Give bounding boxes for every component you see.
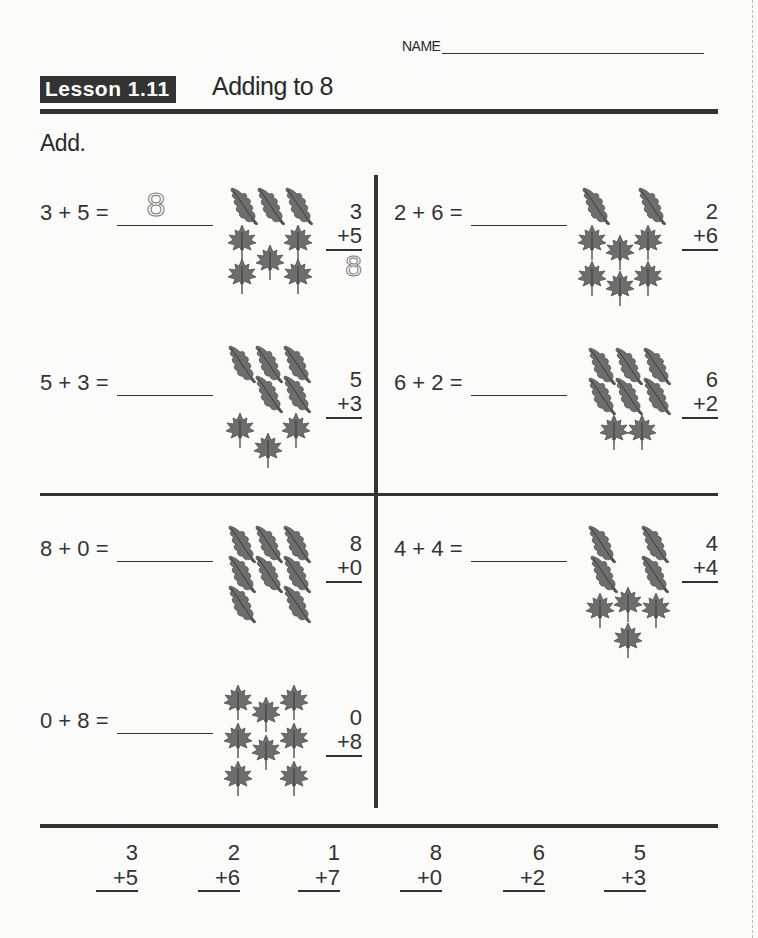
bottom-problem-top: 6	[503, 840, 545, 865]
bottom-problem-bottom: +2	[503, 865, 545, 892]
vertical-top: 0	[326, 706, 362, 730]
answer-blank[interactable]	[471, 539, 567, 562]
leaf-group-icon	[586, 346, 676, 456]
bottom-problem-bottom: +6	[198, 865, 240, 892]
leaf-group-icon	[226, 344, 316, 469]
traced-answer: 8	[147, 185, 166, 224]
leaf-group-icon	[228, 186, 318, 301]
equation: 6 + 2 =	[394, 370, 463, 396]
name-field[interactable]: NAME	[402, 38, 704, 54]
leaf-group-icon	[226, 524, 316, 624]
answer-blank[interactable]	[117, 539, 213, 562]
vertical-traced-answer: 8	[326, 251, 362, 281]
vertical-bottom: +2	[682, 392, 718, 419]
vertical-bottom: +8	[326, 730, 362, 757]
bottom-problem-1: 3 +5	[96, 840, 138, 892]
equation: 4 + 4 =	[394, 536, 463, 562]
vertical-top: 5	[326, 368, 362, 392]
vertical-bottom: +0	[326, 556, 362, 583]
vertical-top: 6	[682, 368, 718, 392]
bottom-problem-6: 5 +3	[604, 840, 646, 892]
vertical-bottom: +6	[682, 224, 718, 251]
equation: 3 + 5 =	[40, 200, 109, 226]
vertical-bottom: +4	[682, 556, 718, 583]
vertical-top: 4	[682, 532, 718, 556]
header-rule	[40, 109, 718, 114]
vertical-divider	[374, 175, 378, 808]
bottom-problem-5: 6 +2	[503, 840, 545, 892]
bottom-problem-top: 5	[604, 840, 646, 865]
bottom-problem-3: 1 +7	[298, 840, 340, 892]
bottom-problem-2: 2 +6	[198, 840, 240, 892]
answer-blank[interactable]	[117, 711, 213, 734]
lesson-badge: Lesson 1.11	[40, 76, 176, 103]
answer-blank[interactable]	[117, 373, 213, 396]
name-line[interactable]	[442, 39, 704, 54]
bottom-problem-top: 2	[198, 840, 240, 865]
equation: 5 + 3 =	[40, 370, 109, 396]
vertical-bottom: +3	[326, 392, 362, 419]
equation: 0 + 8 =	[40, 708, 109, 734]
leaf-group-icon	[586, 524, 676, 664]
answer-blank[interactable]	[471, 373, 567, 396]
middle-divider	[40, 493, 718, 496]
bottom-problem-bottom: +3	[604, 865, 646, 892]
bottom-problem-top: 1	[298, 840, 340, 865]
answer-blank[interactable]	[471, 203, 567, 226]
vertical-top: 2	[682, 200, 718, 224]
vertical-top: 3	[326, 200, 362, 224]
leaf-group-icon	[578, 186, 668, 311]
bottom-problem-bottom: +5	[96, 865, 138, 892]
bottom-divider	[40, 824, 718, 828]
vertical-bottom: +5	[326, 224, 362, 251]
leaf-group-icon	[224, 684, 314, 799]
bottom-problem-bottom: +7	[298, 865, 340, 892]
vertical-top: 8	[326, 532, 362, 556]
bottom-problem-4: 8 +0	[400, 840, 442, 892]
equation: 2 + 6 =	[394, 200, 463, 226]
page-edge	[752, 0, 753, 938]
name-label: NAME	[402, 38, 440, 54]
equation: 8 + 0 =	[40, 536, 109, 562]
answer-blank[interactable]: 8	[117, 203, 213, 226]
page-title: Adding to 8	[212, 72, 333, 101]
bottom-problem-top: 8	[400, 840, 442, 865]
bottom-problem-bottom: +0	[400, 865, 442, 892]
instruction: Add.	[40, 130, 85, 157]
bottom-problem-top: 3	[96, 840, 138, 865]
